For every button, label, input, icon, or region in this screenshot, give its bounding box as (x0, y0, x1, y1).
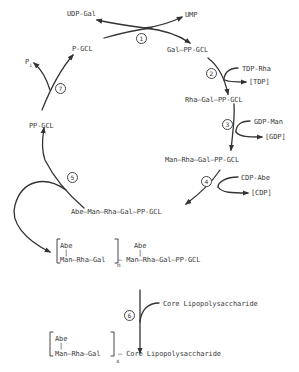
step-5-marker: 5 (67, 172, 78, 183)
label-p-gcl: P-GCL (72, 45, 93, 53)
pathway-diagram: UDP-Gal UMP Gal—PP-GCL P-GCL Pi TDP-Rha … (0, 0, 299, 372)
step-2-marker: 2 (206, 68, 217, 79)
label-polymer-chain: Man—Rha—Gal (60, 256, 105, 264)
step-3-marker: 3 (222, 119, 233, 130)
label-udp-gal: UDP-Gal (67, 10, 96, 18)
label-tdp-rha: TDP-Rha (242, 65, 271, 73)
label-pp-gcl: PP-GCL (29, 122, 54, 130)
label-abe-man-rha-gal-pp-gcl: Abe—Man—Rha—Gal—PP-GCL (71, 208, 162, 216)
label-final-x: x (116, 357, 120, 365)
label-man-rha-gal-pp-gcl: Man—Rha—Gal—PP-GCL (165, 156, 239, 164)
label-ump: UMP (185, 11, 197, 19)
label-cdp: [CDP] (251, 189, 272, 197)
label-pi: Pi (25, 58, 32, 66)
label-gdp: [GDP] (265, 133, 286, 141)
label-gdp-man: GDP-Man (254, 118, 283, 126)
label-polymer-tail-chain: — Man—Rha—Gal—PP-GCL (118, 256, 200, 264)
label-rha-gal-pp-gcl: Rha—Gal—PP-GCL (185, 96, 243, 104)
pathway-arrows (0, 0, 299, 372)
label-final-chain: Man—Rha—Gal (55, 350, 100, 358)
label-cdp-abe: CDP-Abe (241, 174, 270, 182)
step-7-marker: 7 (55, 83, 66, 94)
step-6-marker: 6 (124, 310, 135, 321)
label-gal-pp-gcl: Gal—PP-GCL (167, 46, 208, 54)
step-4-marker: 4 (201, 176, 212, 187)
label-tdp: [TDP] (249, 78, 270, 86)
label-final-core: — Core Lipopolysaccharide (118, 350, 221, 358)
label-final-bar: | (59, 342, 63, 350)
label-core-lps-in: Core Lipopolysaccharide (163, 300, 258, 308)
step-1-marker: 1 (136, 33, 147, 44)
